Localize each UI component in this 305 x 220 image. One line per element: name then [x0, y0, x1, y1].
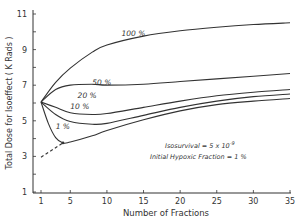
annotation-isosurvival-text: Isosurvival = 5 x 10 — [165, 142, 230, 150]
x-tick-label: 1 — [38, 197, 43, 206]
y-tick-label: 9 — [22, 46, 27, 55]
x-tick-label: 25 — [212, 197, 222, 206]
curve-labels: 100 %50 %20 %10 %1 % — [56, 29, 146, 131]
y-tick-label: 7 — [22, 81, 27, 90]
curve-label: 50 % — [92, 78, 111, 87]
curve-label: 100 % — [122, 29, 146, 38]
x-tick-label: 15 — [138, 197, 148, 206]
dose-fractions-chart: 135791115101520253035 100 %50 %20 %10 %1… — [0, 0, 305, 220]
extrapolation-line — [41, 143, 63, 157]
y-tick-label: 11 — [17, 10, 27, 19]
y-tick-label: 1 — [22, 188, 27, 197]
y-axis-label: Total Dose for Isoeffect ( K Rads ) — [5, 37, 14, 171]
curve-label: 20 % — [78, 91, 97, 100]
curve-label: 10 % — [70, 102, 89, 111]
x-axis-label: Number of Fractions — [123, 208, 210, 218]
curve-100-percent — [41, 23, 290, 102]
annotation-hypoxic-fraction: Initial Hypoxic Fraction = 1 % — [150, 153, 247, 161]
minimum-marker — [62, 142, 65, 145]
x-tick-label: 20 — [175, 197, 185, 206]
curve-label: 1 % — [56, 122, 70, 131]
y-tick-label: 3 — [22, 152, 27, 161]
annotation-isosurvival-exponent: -9 — [230, 140, 235, 146]
x-tick-label: 10 — [102, 197, 112, 206]
x-tick-label: 35 — [285, 197, 295, 206]
x-tick-label: 5 — [68, 197, 73, 206]
curves — [41, 23, 290, 157]
annotation-isosurvival: Isosurvival = 5 x 10-9 — [165, 140, 235, 150]
y-tick-label: 5 — [22, 117, 27, 126]
x-tick-label: 30 — [248, 197, 258, 206]
